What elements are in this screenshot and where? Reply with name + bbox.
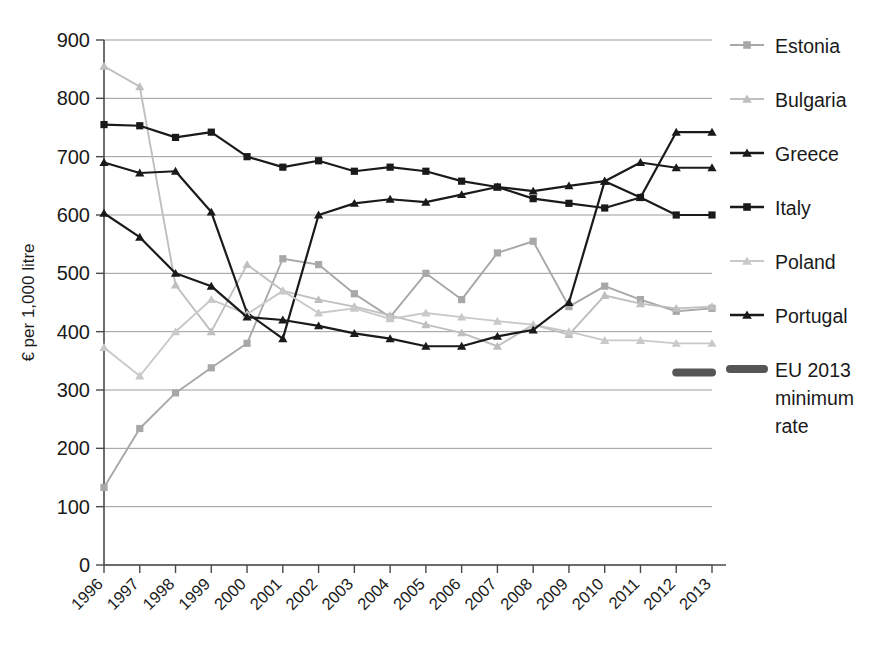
marker-square (351, 290, 358, 297)
x-axis-ticks: 1996199719981999200020012002200320042005… (67, 565, 714, 613)
marker-square (172, 134, 179, 141)
y-tick-label: 100 (57, 496, 90, 518)
marker-square (708, 211, 715, 218)
marker-square (136, 122, 143, 129)
marker-square (530, 195, 537, 202)
legend-label: Bulgaria (775, 89, 847, 111)
x-tick-label: 2006 (425, 574, 464, 613)
line-chart: 0100200300400500600700800900 19961997199… (0, 0, 886, 660)
x-tick-label: 2002 (282, 574, 321, 613)
marker-square (743, 203, 751, 211)
marker-square (601, 204, 608, 211)
x-tick-label: 2012 (640, 574, 679, 613)
x-tick-label: 1998 (139, 574, 178, 613)
x-tick-label: 2013 (675, 574, 714, 613)
marker-square (458, 296, 465, 303)
series-layer (99, 62, 716, 491)
legend-label: EU 2013 (775, 359, 851, 381)
marker-square (208, 129, 215, 136)
x-tick-label: 2001 (246, 574, 285, 613)
series-italy (100, 121, 715, 219)
marker-triangle (207, 295, 216, 303)
x-tick-label: 1999 (175, 574, 214, 613)
marker-triangle (171, 281, 180, 289)
x-tick-label: 2007 (461, 574, 500, 613)
x-tick-label: 2008 (497, 574, 536, 613)
marker-triangle (99, 62, 108, 70)
series-line (104, 241, 712, 487)
marker-square (601, 283, 608, 290)
y-tick-label: 400 (57, 321, 90, 343)
marker-square (279, 255, 286, 262)
y-axis-label: € per 1,000 litre (19, 243, 38, 361)
marker-triangle (135, 82, 144, 90)
marker-square (422, 270, 429, 277)
legend-item-estonia: Estonia (730, 35, 840, 57)
marker-triangle (242, 260, 251, 268)
marker-square (315, 261, 322, 268)
legend-group: EstoniaBulgariaGreeceItalyPolandPortugal… (730, 35, 854, 437)
marker-square (494, 249, 501, 256)
marker-square (565, 200, 572, 207)
marker-triangle (99, 209, 108, 217)
y-tick-label: 600 (57, 204, 90, 226)
y-axis-title: € per 1,000 litre (19, 243, 38, 361)
y-tick-label: 900 (57, 29, 90, 51)
legend-label-continued: minimum (775, 387, 854, 409)
legend-label: Estonia (775, 35, 840, 57)
marker-triangle (99, 158, 108, 166)
marker-square (673, 211, 680, 218)
y-tick-label: 700 (57, 146, 90, 168)
x-tick-label: 2000 (210, 574, 249, 613)
marker-square (458, 178, 465, 185)
x-tick-label: 2005 (389, 574, 428, 613)
legend-item-greece: Greece (730, 143, 839, 165)
marker-square (351, 168, 358, 175)
x-tick-label: 2003 (318, 574, 357, 613)
series-bulgaria (99, 62, 716, 350)
chart-canvas: 0100200300400500600700800900 19961997199… (0, 0, 886, 660)
marker-square (743, 41, 751, 49)
legend-item-italy: Italy (730, 197, 811, 219)
marker-square (100, 484, 107, 491)
legend-item-portugal: Portugal (730, 305, 848, 327)
marker-square (136, 425, 143, 432)
legend-item-poland: Poland (730, 251, 836, 273)
marker-triangle (99, 343, 108, 351)
y-tick-label: 800 (57, 87, 90, 109)
marker-square (279, 164, 286, 171)
legend-label: Portugal (775, 305, 848, 327)
legend-label: Greece (775, 143, 839, 165)
marker-square (243, 340, 250, 347)
marker-square (387, 164, 394, 171)
marker-square (315, 157, 322, 164)
y-axis-ticks: 0100200300400500600700800900 (57, 29, 104, 576)
marker-square (530, 238, 537, 245)
x-tick-label: 1997 (103, 574, 142, 613)
marker-square (243, 153, 250, 160)
y-tick-label: 0 (79, 554, 90, 576)
y-tick-label: 300 (57, 379, 90, 401)
y-tick-label: 200 (57, 437, 90, 459)
marker-square (208, 364, 215, 371)
series-line (104, 66, 712, 346)
marker-square (494, 183, 501, 190)
legend-label-continued: rate (775, 415, 809, 437)
marker-square (422, 168, 429, 175)
legend-item-bulgaria: Bulgaria (730, 89, 847, 111)
x-tick-label: 2009 (532, 574, 571, 613)
marker-triangle (600, 291, 609, 299)
x-tick-label: 2011 (605, 574, 643, 612)
x-tick-label: 2010 (568, 574, 607, 613)
legend-label: Poland (775, 251, 836, 273)
y-tick-label: 500 (57, 262, 90, 284)
series-greece (99, 158, 716, 342)
series-estonia (100, 238, 715, 491)
gridlines-group (104, 40, 712, 565)
marker-square (172, 389, 179, 396)
x-tick-label: 1996 (67, 574, 106, 613)
legend-label: Italy (775, 197, 811, 219)
legend-item-eu-2013-minimum-rate: EU 2013 (730, 359, 851, 381)
series-line (104, 291, 712, 376)
x-tick-label: 2004 (354, 574, 393, 613)
